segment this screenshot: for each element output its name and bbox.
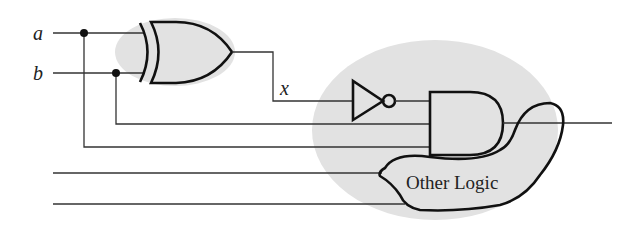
other-logic-label: Other Logic xyxy=(406,172,498,193)
junction-dot-a xyxy=(80,29,88,37)
input-label-b: b xyxy=(33,62,43,84)
and-highlight-region xyxy=(312,40,558,220)
xor-highlight-region xyxy=(115,18,235,86)
input-label-a: a xyxy=(33,22,43,44)
logic-circuit-diagram: a b x Other Logic xyxy=(0,0,643,226)
junction-dot-b xyxy=(112,69,120,77)
signal-label-x: x xyxy=(279,77,289,99)
